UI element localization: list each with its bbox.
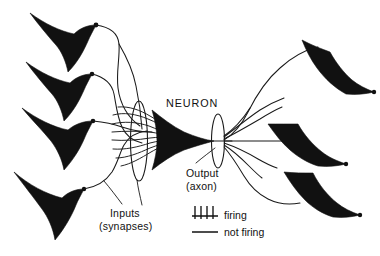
- output-neuron-2-soma: [268, 124, 346, 166]
- output-label-line1: Output: [186, 167, 219, 179]
- input-neuron-2: [26, 62, 94, 121]
- legend-row-firing: firing: [192, 206, 247, 221]
- output-neuron-1: [302, 40, 376, 94]
- output-neuron-3-soma: [284, 172, 360, 217]
- inputs-leader-line: [137, 180, 142, 205]
- output-neuron-2: [268, 124, 348, 166]
- legend-row-not-firing: not firing: [192, 226, 264, 238]
- input-neuron-group: [14, 13, 98, 240]
- output-fiber-4: [224, 143, 277, 168]
- output-neuron-2-terminal: [344, 162, 348, 166]
- output-neuron-1-terminal: [372, 90, 376, 94]
- input-neuron-4-soma: [14, 172, 84, 240]
- input-neuron-3: [22, 108, 95, 170]
- legend: firing not firing: [192, 206, 264, 238]
- neuron-label: NEURON: [166, 97, 218, 109]
- central-neuron: [152, 110, 232, 170]
- output-neuron-group: [268, 40, 376, 217]
- output-fiber-5: [224, 145, 262, 178]
- inputs-leader-line-2: [104, 181, 122, 204]
- output-neuron-3-terminal: [358, 213, 362, 217]
- legend-not-firing-label: not firing: [224, 226, 264, 238]
- input-neuron-1: [30, 13, 98, 72]
- output-neuron-1-soma: [302, 40, 374, 94]
- output-label-line2: (axon): [186, 180, 217, 192]
- input-synapse-bundle-ellipse: [131, 101, 148, 181]
- inputs-label-line2: (synapses): [99, 220, 152, 232]
- legend-firing-label: firing: [224, 209, 247, 221]
- spike-train-icon: [192, 206, 218, 219]
- input-neuron-3-soma: [22, 108, 93, 170]
- input-neuron-2-soma: [26, 62, 92, 121]
- diagram-canvas: NEURON Output (axon) Inputs (synapses) f…: [0, 0, 380, 256]
- central-neuron-soma: [152, 110, 214, 170]
- input-neuron-4: [14, 172, 86, 240]
- inputs-label-line1: Inputs: [110, 207, 140, 219]
- output-fiber-2: [224, 107, 282, 139]
- input-fiber-1b: [119, 44, 142, 129]
- input-neuron-1-soma: [30, 13, 96, 72]
- neuron-diagram: NEURON Output (axon) Inputs (synapses) f…: [0, 0, 380, 256]
- output-neuron-3: [284, 172, 362, 217]
